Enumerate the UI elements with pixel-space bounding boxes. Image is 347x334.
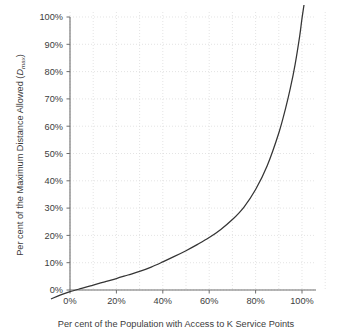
y-tick-label: 40% bbox=[45, 176, 63, 186]
y-axis-title-prefix: Per cent of the Maximum Distance Allowed… bbox=[15, 76, 25, 256]
x-tick-label: 0% bbox=[63, 296, 76, 306]
x-axis-title: Per cent of the Population with Access t… bbox=[58, 319, 295, 329]
y-axis-title-suffix: ) bbox=[15, 54, 25, 57]
chart-background bbox=[0, 0, 347, 334]
y-tick-label: 90% bbox=[45, 40, 63, 50]
x-tick-label: 20% bbox=[107, 296, 125, 306]
x-tick-label: 100% bbox=[290, 296, 314, 306]
chart-figure: 0%20%40%60%80%100% 0%10%20%30%40%50%60%7… bbox=[0, 0, 347, 334]
y-tick-label: 0% bbox=[50, 285, 63, 295]
y-tick-label: 10% bbox=[45, 258, 63, 268]
y-axis-title-group: Per cent of the Maximum Distance Allowed… bbox=[15, 54, 26, 256]
x-tick-label: 60% bbox=[200, 296, 218, 306]
x-tick-label: 80% bbox=[246, 296, 264, 306]
y-tick-label: 50% bbox=[45, 149, 63, 159]
y-tick-label: 80% bbox=[45, 67, 63, 77]
svg-text:Per cent of the Maximum Distan: Per cent of the Maximum Distance Allowed… bbox=[15, 54, 26, 256]
y-tick-label: 60% bbox=[45, 122, 63, 132]
y-axis-title-subscript: max bbox=[19, 56, 26, 69]
chart-canvas: 0%20%40%60%80%100% 0%10%20%30%40%50%60%7… bbox=[0, 0, 347, 334]
y-tick-label: 30% bbox=[45, 203, 63, 213]
y-tick-label: 70% bbox=[45, 94, 63, 104]
y-tick-label: 100% bbox=[40, 12, 64, 22]
y-tick-label: 20% bbox=[45, 231, 63, 241]
x-tick-label: 40% bbox=[154, 296, 172, 306]
